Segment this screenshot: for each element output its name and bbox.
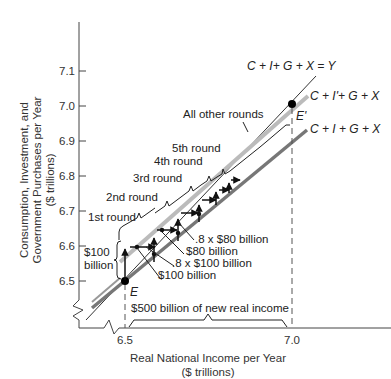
label-round-1: 1st round	[88, 211, 136, 223]
y-tick-label: 7.1	[59, 65, 75, 77]
x-axis-title: Real National Income per Year	[130, 352, 286, 364]
y-tick-label: 6.5	[59, 275, 75, 287]
y-ticks: 7.1 7.0 6.9 6.8 6.7 6.6 6.5	[59, 65, 86, 287]
y-tick-label: 6.9	[59, 135, 75, 147]
y-axis-title-line2: Government Purchases per Year	[31, 96, 43, 263]
point-e-label: E	[130, 285, 139, 299]
y-axis-title-line1: Consumption, Investment, and	[18, 102, 30, 258]
label-100-billion-step-line1: $100	[84, 246, 110, 258]
x-axis-unit: ($ trillions)	[181, 366, 234, 378]
y-tick-label: 6.6	[59, 240, 75, 252]
label-new-aggregate-demand: C + I'+ G + X	[310, 89, 380, 103]
multiplier-diagram: 7.1 7.0 6.9 6.8 6.7 6.6 6.5 6.5 7.0 Real…	[0, 0, 391, 379]
x-axis	[79, 320, 391, 334]
x-tick-label: 6.5	[117, 334, 133, 346]
point-e-prime-label: E'	[296, 109, 307, 123]
label-500-billion-income: $500 billion of new real income	[131, 302, 289, 314]
label-round-4: 4th round	[154, 155, 203, 167]
label-80-billion: $80 billion	[186, 245, 238, 257]
label-100-billion-step-line2: billion	[84, 259, 113, 271]
y-axis-title-line3: ($ trillions)	[44, 153, 56, 206]
y-tick-label: 6.8	[59, 170, 75, 182]
label-8x80-billion: .8 x $80 billion	[195, 233, 269, 245]
label-8x100-billion: .8 x $100 billion	[172, 257, 252, 269]
y-tick-label: 7.0	[59, 100, 75, 112]
point-e-prime	[288, 100, 296, 108]
x-tick-label: 7.0	[284, 334, 300, 346]
label-100-billion: $100 billion	[158, 269, 216, 281]
label-all-other-rounds: All other rounds	[183, 108, 264, 120]
label-round-3: 3rd round	[133, 172, 182, 184]
label-original-aggregate-demand: C + I + G + X	[310, 122, 381, 136]
label-round-5: 5th round	[172, 142, 221, 154]
label-round-2: 2nd round	[106, 191, 158, 203]
y-axis-title: Consumption, Investment, and Government …	[18, 96, 56, 263]
label-45-degree-line: C + I+ G + X = Y	[247, 59, 336, 73]
y-tick-label: 6.7	[59, 205, 75, 217]
bracket-500-billion	[129, 314, 287, 327]
